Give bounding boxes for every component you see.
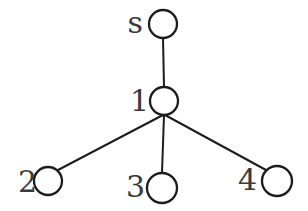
node-circle-1 bbox=[150, 87, 178, 115]
edge-1-2 bbox=[58, 115, 163, 170]
diagram-canvas: s1234 bbox=[0, 0, 308, 211]
node-circle-2 bbox=[34, 167, 62, 195]
node-label-1: 1 bbox=[130, 83, 149, 118]
tree-diagram: s1234 bbox=[0, 0, 308, 211]
node-label-2: 2 bbox=[18, 164, 37, 199]
node-circle-s bbox=[149, 10, 177, 38]
node-circle-4 bbox=[262, 166, 292, 196]
edge-1-3 bbox=[162, 115, 164, 173]
node-label-3: 3 bbox=[126, 169, 145, 204]
edge-s-1 bbox=[163, 38, 164, 87]
node-circle-3 bbox=[147, 173, 177, 203]
node-label-s: s bbox=[128, 5, 143, 40]
node-label-4: 4 bbox=[238, 162, 257, 197]
